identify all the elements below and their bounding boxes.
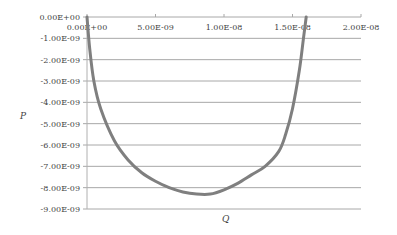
y-tick-label: -6.00E-09 — [41, 141, 80, 150]
data-series-line — [87, 17, 306, 194]
gridlines — [83, 17, 361, 209]
y-tick-label: -7.00E-09 — [41, 162, 80, 171]
y-tick-label: -5.00E-09 — [41, 120, 80, 129]
y-axis-label: P — [19, 111, 27, 121]
y-tick-label: -3.00E-09 — [41, 77, 80, 86]
chart: 0.00E+00-1.00E-09-2.00E-09-3.00E-09-4.00… — [0, 0, 397, 235]
y-tick-label: -4.00E-09 — [41, 98, 80, 107]
y-tick-label: -8.00E-09 — [41, 184, 80, 193]
x-tick-label: 2.00E-08 — [343, 23, 380, 32]
x-tick-label: 5.00E-09 — [137, 23, 174, 32]
x-axis-label: Q — [222, 214, 230, 224]
y-axis-ticks: 0.00E+00-1.00E-09-2.00E-09-3.00E-09-4.00… — [39, 13, 80, 214]
y-tick-label: -9.00E-09 — [41, 205, 80, 214]
y-tick-label: -2.00E-09 — [41, 56, 80, 65]
y-tick-label: 0.00E+00 — [39, 13, 80, 22]
y-tick-label: -1.00E-09 — [41, 34, 80, 43]
x-tick-label: 1.00E-08 — [206, 23, 243, 32]
